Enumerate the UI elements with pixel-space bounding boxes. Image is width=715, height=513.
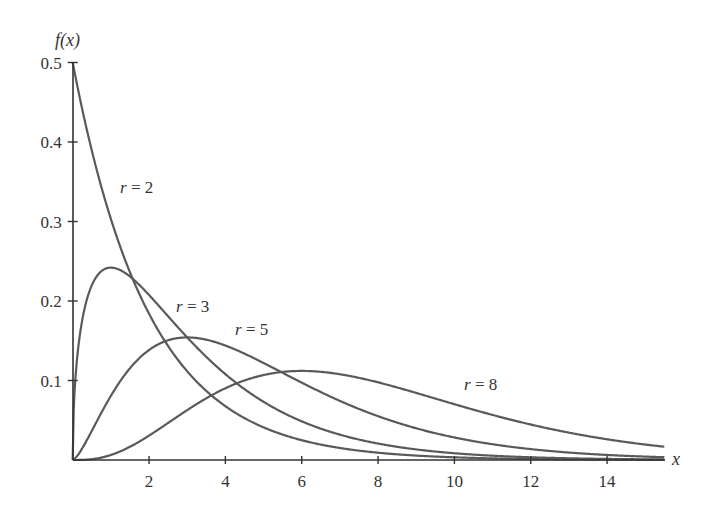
curve-r-2 <box>73 63 665 460</box>
curve-label: r = 5 <box>235 320 268 339</box>
x-tick-label: 2 <box>145 472 154 491</box>
axes <box>73 63 665 460</box>
x-tick-label: 14 <box>599 472 617 491</box>
x-tick-label: 6 <box>297 472 306 491</box>
x-ticks: 2468101214 <box>145 456 616 491</box>
curves <box>73 63 665 461</box>
x-tick-label: 4 <box>221 472 230 491</box>
y-ticks: 0.10.20.30.40.5 <box>40 54 77 391</box>
y-tick-label: 0.5 <box>40 54 61 73</box>
y-tick-label: 0.1 <box>40 372 61 391</box>
curve-r-3 <box>73 268 665 460</box>
y-tick-label: 0.4 <box>40 133 62 152</box>
curve-labels: r = 2r = 3r = 5r = 8 <box>120 178 497 394</box>
x-tick-label: 8 <box>374 472 383 491</box>
x-tick-label: 10 <box>446 472 463 491</box>
curve-label: r = 2 <box>120 178 153 197</box>
x-tick-label: 12 <box>522 472 539 491</box>
x-axis-label: x <box>671 449 680 469</box>
chi-squared-chart: 2468101214 0.10.20.30.40.5 f(x) x r = 2r… <box>0 0 715 513</box>
curve-label: r = 8 <box>464 375 497 394</box>
y-tick-label: 0.3 <box>40 213 61 232</box>
y-axis-label: f(x) <box>55 30 80 51</box>
curve-r-8 <box>73 371 665 460</box>
y-tick-label: 0.2 <box>40 292 61 311</box>
curve-label: r = 3 <box>176 297 209 316</box>
